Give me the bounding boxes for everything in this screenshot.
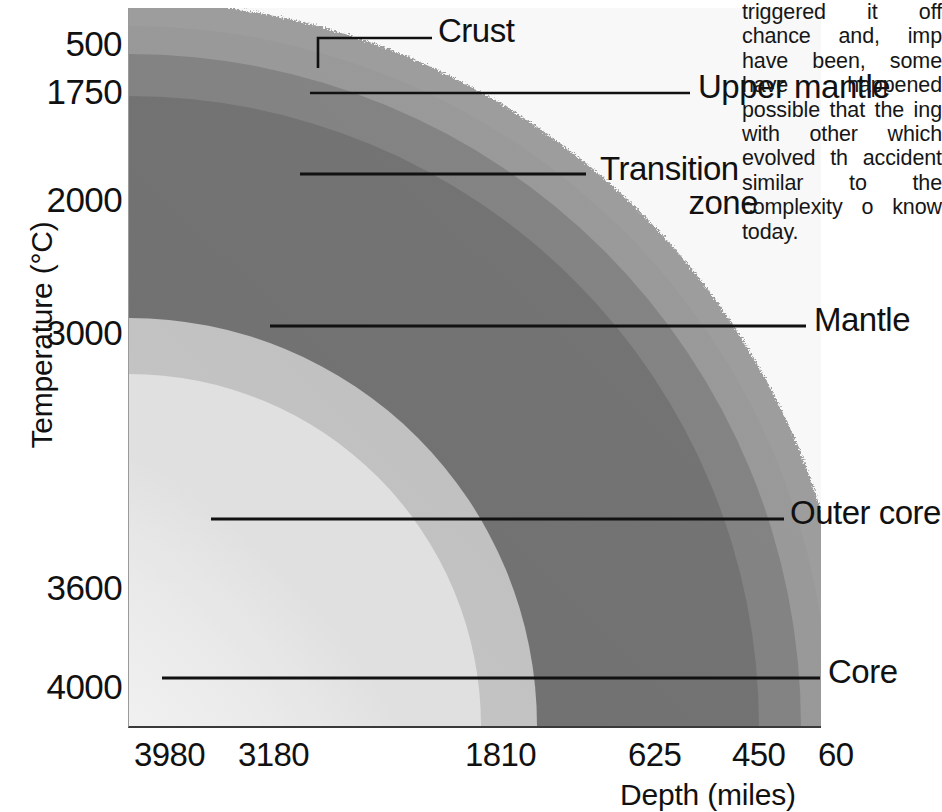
x-tick-label: 1810	[465, 738, 536, 771]
body-text-column: triggered it off chance and, imp have be…	[742, 0, 942, 244]
y-tick-label: 3600	[2, 570, 122, 605]
callout-label-mantle: Mantle	[814, 303, 910, 337]
print-grain-overlay	[129, 8, 821, 726]
earth-cutaway-diagram	[128, 8, 821, 728]
x-tick-label: 60	[818, 738, 854, 771]
x-tick-label: 625	[628, 738, 681, 771]
x-tick-label: 3180	[238, 738, 309, 771]
y-tick-label: 4000	[2, 669, 122, 704]
y-tick-label: 2000	[2, 182, 122, 217]
x-axis-tick-labels: 3980 3180 1810 625 450 60	[0, 738, 925, 778]
y-axis-tick-labels: 500 1750 2000 3000 3600 4000	[0, 0, 122, 806]
callout-label-core: Core	[828, 655, 898, 689]
y-tick-label: 500	[2, 26, 122, 61]
body-text-paragraph: triggered it off chance and, imp have be…	[742, 0, 942, 244]
y-tick-label: 3000	[2, 315, 122, 350]
y-tick-label: 1750	[2, 74, 122, 109]
x-tick-label: 3980	[134, 738, 205, 771]
x-tick-label: 450	[732, 738, 785, 771]
callout-label-transition-zone-line2: zone	[600, 186, 758, 220]
earth-layers-svg	[129, 8, 821, 726]
callout-label-crust: Crust	[438, 14, 514, 48]
callout-label-outer-core: Outer core	[790, 496, 941, 530]
x-axis-title: Depth (miles)	[620, 778, 796, 812]
